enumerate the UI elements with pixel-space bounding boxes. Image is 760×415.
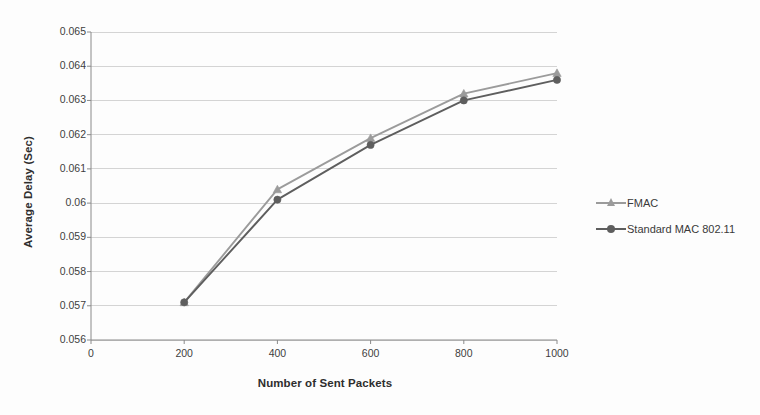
legend-key-icon xyxy=(596,196,626,210)
legend-key-icon xyxy=(596,222,626,236)
axis-lines xyxy=(87,32,557,340)
data-point-marker xyxy=(181,299,188,306)
y-tick-label: 0.058 xyxy=(40,266,86,277)
chart-figure: 0.0560.0570.0580.0590.060.0610.0620.0630… xyxy=(0,0,760,415)
x-tick-label: 1000 xyxy=(527,347,587,359)
data-point-marker xyxy=(273,185,281,193)
x-tick-marks xyxy=(91,340,557,344)
series-line-2 xyxy=(184,80,557,302)
x-tick-label: 600 xyxy=(341,347,401,359)
data-point-marker xyxy=(367,141,374,148)
y-tick-label: 0.064 xyxy=(40,60,86,71)
y-tick-label: 0.059 xyxy=(40,231,86,242)
x-axis-title: Number of Sent Packets xyxy=(92,377,558,389)
gridlines xyxy=(91,32,557,340)
legend-label: FMAC xyxy=(627,197,658,209)
y-tick-label: 0.063 xyxy=(40,94,86,105)
legend-label: Standard MAC 802.11 xyxy=(627,223,735,235)
y-axis-title: Average Delay (Sec) xyxy=(22,102,34,282)
y-tick-label: 0.057 xyxy=(40,300,86,311)
y-tick-label: 0.062 xyxy=(40,129,86,140)
data-point-marker xyxy=(460,97,467,104)
y-tick-label: 0.065 xyxy=(40,26,86,37)
legend-triangle-icon xyxy=(607,198,615,206)
chart-legend: FMACStandard MAC 802.11 xyxy=(596,190,760,242)
data-point-marker xyxy=(274,196,281,203)
x-tick-label: 400 xyxy=(247,347,307,359)
series-line-1 xyxy=(184,73,557,302)
legend-item-1[interactable]: FMAC xyxy=(596,190,760,216)
data-point-marker xyxy=(553,76,560,83)
y-tick-label: 0.06 xyxy=(40,197,86,208)
y-tick-label: 0.056 xyxy=(40,334,86,345)
legend-circle-icon xyxy=(607,225,615,233)
legend-item-2[interactable]: Standard MAC 802.11 xyxy=(596,216,760,242)
x-tick-label: 800 xyxy=(434,347,494,359)
data-point-marker xyxy=(553,69,561,77)
y-tick-label: 0.061 xyxy=(40,163,86,174)
x-tick-label: 200 xyxy=(154,347,214,359)
x-tick-label: 0 xyxy=(61,347,121,359)
data-series-layer xyxy=(180,69,561,306)
